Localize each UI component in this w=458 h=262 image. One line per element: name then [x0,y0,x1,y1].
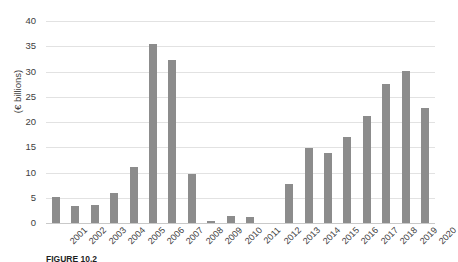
gridline [46,223,435,224]
y-axis-tick-labels: 0510152025303540 [0,21,42,223]
bar [343,137,351,223]
y-axis-tick-label: 5 [31,193,36,203]
x-axis-tick-label: 2012 [282,225,303,246]
bar [382,84,390,223]
y-axis-tick-label: 0 [31,218,36,228]
x-axis-tick-label: 2005 [145,225,166,246]
x-axis-tick-label: 2019 [418,225,439,246]
y-axis-tick-label: 15 [25,142,36,152]
gridline [46,46,435,47]
bar [402,71,410,224]
figure-caption: FIGURE 10.2 [46,254,435,262]
figure-caption-label: FIGURE 10.2 [46,254,97,262]
gridline [46,147,435,148]
bar [188,174,196,223]
bar [91,205,99,223]
x-axis-tick-label: 2009 [223,225,244,246]
x-axis-tick-label: 2008 [204,225,225,246]
bar [207,221,215,223]
x-axis-tick-labels: 2001200220032004200520062007200820092010… [46,225,435,253]
plot-area [46,21,435,223]
bar [110,193,118,223]
x-axis-tick-label: 2020 [437,225,458,246]
bar [130,167,138,223]
x-axis-tick-label: 2011 [262,225,283,246]
bar [52,197,60,223]
bar [363,116,371,223]
y-axis-tick-label: 40 [25,16,36,26]
gridline [46,21,435,22]
bar [227,216,235,223]
gridline [46,198,435,199]
x-axis-tick-label: 2014 [320,225,341,246]
y-axis-tick-label: 25 [25,92,36,102]
x-axis-tick-label: 2017 [379,225,400,246]
y-axis-tick-label: 10 [25,168,36,178]
bar [285,184,293,223]
x-axis-tick-label: 2003 [106,225,127,246]
x-axis-tick-label: 2006 [165,225,186,246]
x-axis-tick-label: 2007 [184,225,205,246]
gridline [46,122,435,123]
x-axis-tick-label: 2004 [126,225,147,246]
bar [168,60,176,223]
bar [71,206,79,223]
x-axis-tick-label: 2013 [301,225,322,246]
y-axis-tick-label: 20 [25,117,36,127]
x-axis-tick-label: 2016 [359,225,380,246]
bar [246,217,254,223]
x-axis-tick-label: 2001 [68,225,89,246]
x-axis-tick-label: 2015 [340,225,361,246]
gridline [46,97,435,98]
y-axis-tick-label: 30 [25,67,36,77]
gridline [46,72,435,73]
x-axis-tick-label: 2010 [243,225,264,246]
x-axis-tick-label: 2018 [398,225,419,246]
y-axis-tick-label: 35 [25,41,36,51]
gridline [46,173,435,174]
bar [149,44,157,223]
bar [324,153,332,223]
bar [421,108,429,223]
bar [305,148,313,223]
x-axis-tick-label: 2002 [87,225,108,246]
